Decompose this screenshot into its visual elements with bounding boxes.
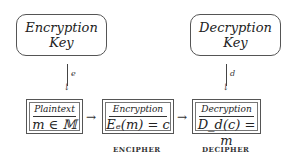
arrow-right-icon: → [177,111,187,123]
decryption-box: Decryption D_d(c) = m [192,99,261,134]
encryption-key-line1: Encryption [17,20,106,35]
arrow-right-icon: → [86,111,96,123]
decipher-caption: DECIPHER [202,145,249,154]
encryption-key-line2: Key [17,35,106,50]
plaintext-box: Plaintext m ∈ 𝕄 [26,99,83,134]
encryption-title: Encryption [106,103,170,115]
encryption-formula: Eₑ(m) = c [106,117,170,133]
encryption-key-box: Encryption Key [16,14,107,56]
plaintext-formula: m ∈ 𝕄 [30,117,79,133]
plaintext-title: Plaintext [30,103,79,115]
decryption-title: Decryption [196,103,257,115]
decryption-key-arrow-head-icon: ↓ [222,83,230,92]
encryption-box: Encryption Eₑ(m) = c [102,99,174,134]
encryption-key-arrow-head-icon: ↓ [63,83,71,92]
decryption-key-line2: Key [191,35,280,50]
decryption-key-box: Decryption Key [190,14,281,56]
decryption-key-arrow-label: d [230,69,235,78]
encipher-caption: ENCIPHER [113,145,161,154]
encryption-key-arrow-label: e [71,69,76,78]
decryption-key-line1: Decryption [191,20,280,35]
